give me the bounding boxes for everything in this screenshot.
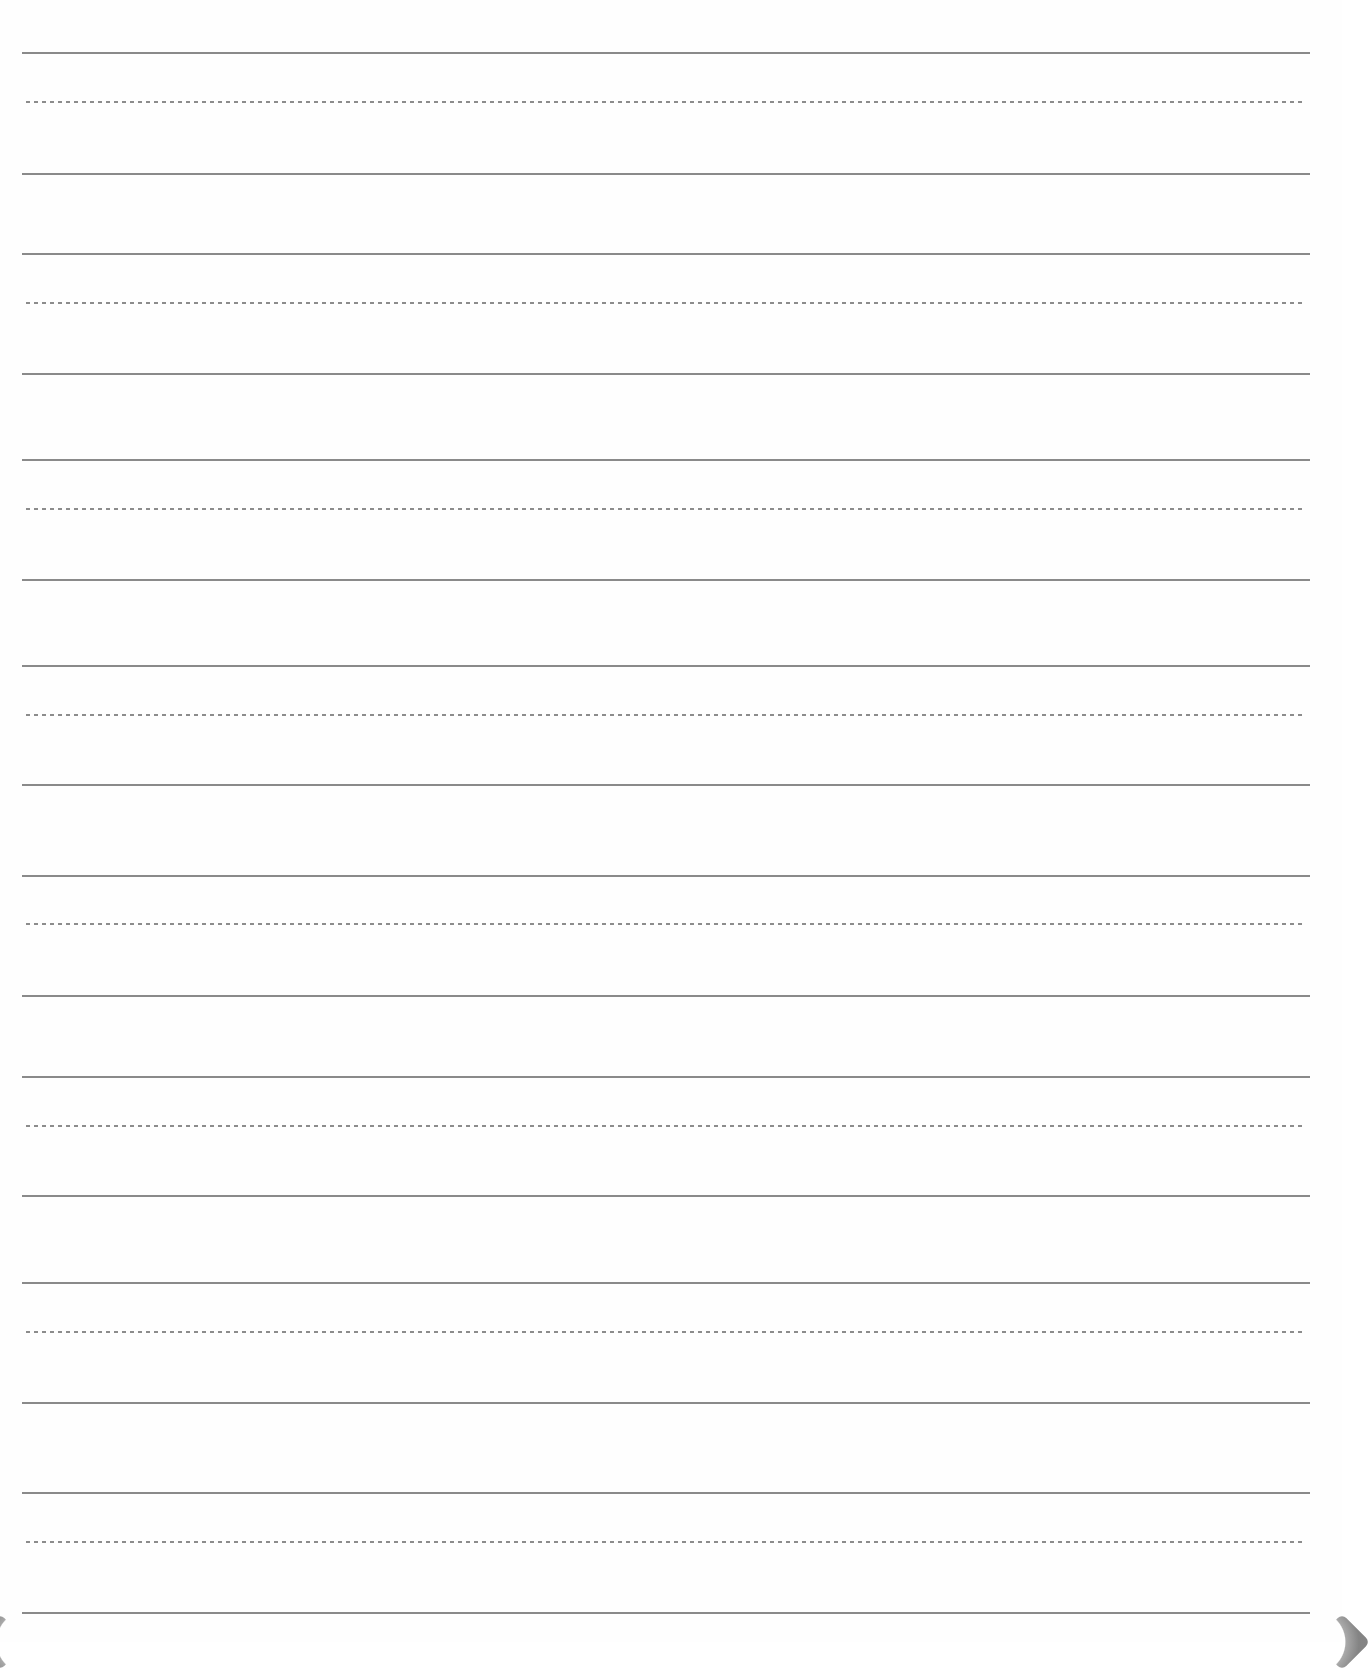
- page-curl-bottom-left: [0, 1614, 28, 1670]
- baseline: [22, 1612, 1310, 1614]
- baseline: [22, 1402, 1310, 1404]
- baseline: [22, 1195, 1310, 1197]
- top-line: [22, 1282, 1310, 1284]
- dotted-midline: [26, 923, 1304, 925]
- dotted-midline: [26, 714, 1304, 716]
- dotted-midline: [26, 1125, 1304, 1127]
- baseline: [22, 579, 1310, 581]
- top-line: [22, 875, 1310, 877]
- top-line: [22, 665, 1310, 667]
- top-line: [22, 459, 1310, 461]
- baseline: [22, 373, 1310, 375]
- dotted-midline: [26, 101, 1304, 103]
- baseline: [22, 784, 1310, 786]
- dotted-midline: [26, 1541, 1304, 1543]
- page-curl-bottom-right: [1314, 1614, 1370, 1670]
- dotted-midline: [26, 1331, 1304, 1333]
- dotted-midline: [26, 508, 1304, 510]
- baseline: [22, 173, 1310, 175]
- baseline: [22, 995, 1310, 997]
- top-line: [22, 52, 1310, 54]
- dotted-midline: [26, 302, 1304, 304]
- top-line: [22, 1076, 1310, 1078]
- top-line: [22, 1492, 1310, 1494]
- top-line: [22, 253, 1310, 255]
